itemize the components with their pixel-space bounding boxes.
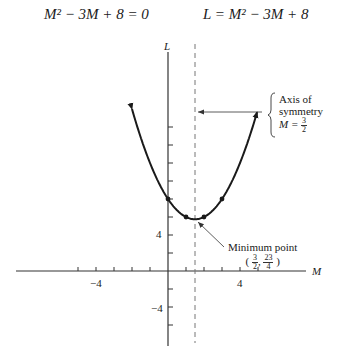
x-tick-label-neg4: −4 [90,277,102,289]
paren-close: ) [276,255,280,267]
x-tick-label-4: 4 [237,277,243,289]
y-fraction: 234 [263,254,273,271]
axis-of-symmetry-line2: symmetry [279,105,323,117]
minimum-point-pointer [198,222,224,247]
frac-den: 2 [302,126,306,134]
minimum-point-coords: ( 32, 234 ) [228,254,297,271]
minimum-point-annotation: Minimum point ( 32, 234 ) [228,241,297,271]
axis-equation-prefix: M = [279,118,301,130]
brace-icon [268,93,275,137]
axis-of-symmetry-annotation: Axis of symmetry M = 32 [279,93,323,134]
x-axis-label: M [312,265,321,277]
parabola-plot [0,0,342,363]
minimum-point-title: Minimum point [228,241,297,253]
y-tick-label-neg4: −4 [151,302,163,314]
paren-open: ( [246,255,250,267]
fraction: 32 [301,117,307,134]
separator: , [258,255,261,267]
frac-den: 2 [253,263,257,271]
axis-of-symmetry-line1: Axis of [279,93,323,105]
y-tick-label-4: 4 [156,228,162,240]
y-axis-label: L [164,40,170,52]
frac-den: 4 [266,263,270,271]
axis-of-symmetry-equation: M = 32 [279,117,323,134]
